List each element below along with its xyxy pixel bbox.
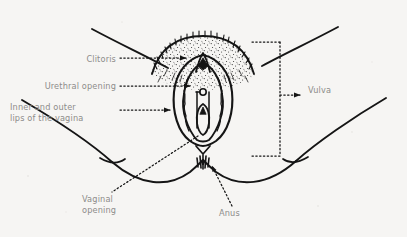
thigh-right — [296, 98, 386, 161]
vulva-group — [174, 53, 233, 154]
label-vaginal-opening: Vaginalopening — [82, 194, 162, 215]
label-vulva: Vulva — [308, 85, 378, 96]
vaginal-opening-shade — [200, 107, 206, 114]
groin-crease-right — [262, 27, 338, 66]
anus-center — [201, 159, 204, 165]
label-inner-outer-lips: Inner and outerlips of the vagina — [10, 102, 116, 123]
anus-mark — [197, 155, 209, 169]
label-inner-outer-lips-line2: lips of the vagina — [10, 113, 83, 123]
label-clitoris: Clitoris — [28, 54, 116, 65]
label-vaginal-opening-line2: opening — [82, 205, 116, 215]
label-inner-outer-lips-line1: Inner and outer — [10, 102, 76, 112]
leader-vaginal-opening — [112, 136, 198, 192]
label-anus: Anus — [219, 208, 269, 219]
fourchette-notch — [196, 146, 210, 154]
leader-anus — [212, 166, 232, 206]
anatomy-diagram-figure: Clitoris Urethral opening Inner and oute… — [0, 0, 407, 237]
label-urethral-opening: Urethral opening — [12, 81, 116, 92]
label-vaginal-opening-line1: Vaginal — [82, 194, 113, 204]
